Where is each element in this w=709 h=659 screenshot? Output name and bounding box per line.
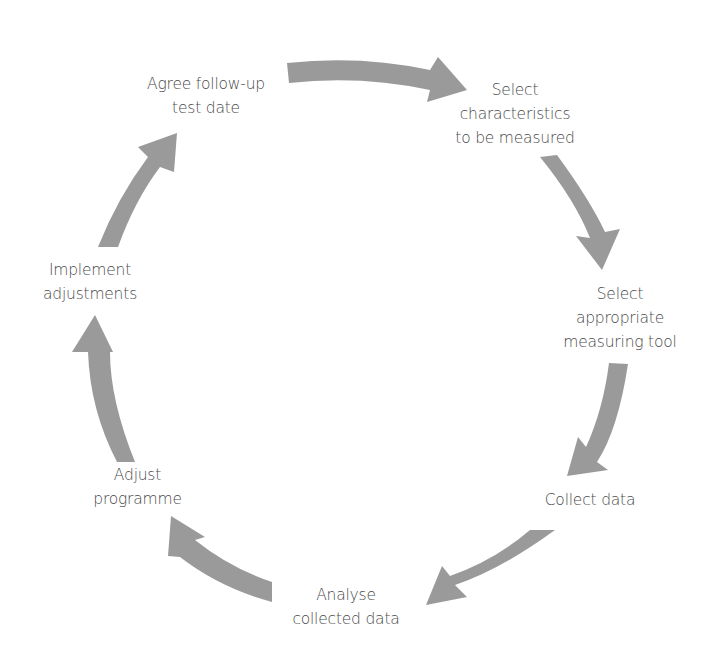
step-label-line: Select — [530, 282, 709, 306]
step-analyse-collected-data: Analyse collected data — [276, 583, 416, 631]
step-label-line: Select — [440, 78, 590, 102]
step-select-characteristics: Select characteristics to be measured — [440, 78, 590, 150]
step-label-line: measuring tool — [530, 330, 709, 354]
step-agree-follow-up: Agree follow-up test date — [126, 72, 286, 120]
step-label-line: to be measured — [440, 126, 590, 150]
step-label-line: Analyse — [276, 583, 416, 607]
step-label-line: collected data — [276, 607, 416, 631]
arrow-icon — [168, 516, 272, 602]
arrow-icon — [567, 363, 628, 476]
arrow-icon — [540, 155, 620, 270]
step-label-line: programme — [80, 487, 195, 511]
step-label-line: Adjust — [80, 463, 195, 487]
step-label-line: Agree follow-up — [126, 72, 286, 96]
step-label-line: test date — [126, 96, 286, 120]
step-label-line: characteristics — [440, 102, 590, 126]
step-label-line: appropriate — [530, 306, 709, 330]
arrow-icon — [72, 315, 135, 462]
step-label-line: Implement — [30, 258, 150, 282]
step-adjust-programme: Adjust programme — [80, 463, 195, 511]
step-collect-data: Collect data — [520, 488, 660, 512]
step-select-measuring-tool: Select appropriate measuring tool — [530, 282, 709, 354]
step-implement-adjustments: Implement adjustments — [30, 258, 150, 306]
cycle-diagram: Agree follow-up test date Select charact… — [0, 0, 709, 659]
arrow-icon — [426, 530, 555, 605]
arrow-icon — [98, 133, 177, 247]
step-label-line: adjustments — [30, 282, 150, 306]
step-label-line: Collect data — [520, 488, 660, 512]
